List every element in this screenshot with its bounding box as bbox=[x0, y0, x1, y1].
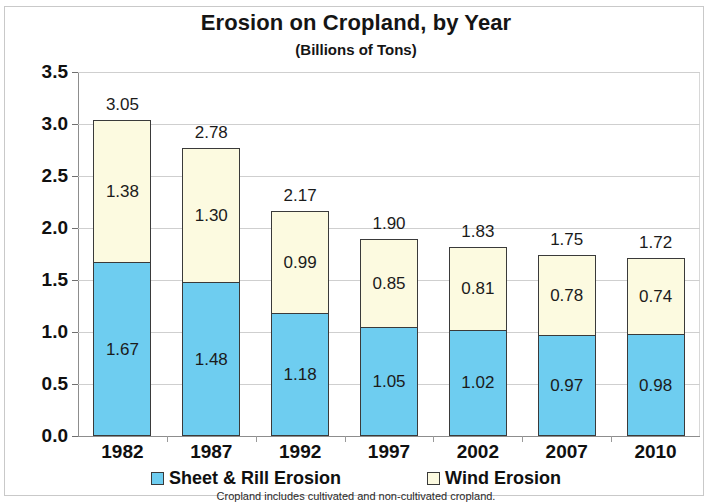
gridline bbox=[78, 176, 700, 177]
bar-segment-sheet-rill-erosion[interactable]: 0.97 bbox=[538, 335, 596, 436]
x-tick-label: 1987 bbox=[171, 441, 251, 463]
bar-segment-sheet-rill-erosion[interactable]: 1.48 bbox=[182, 282, 240, 436]
bar-group[interactable]: 3.051.381.67 bbox=[93, 120, 151, 436]
legend-label: Wind Erosion bbox=[445, 468, 561, 489]
y-tick-label: 2.5 bbox=[12, 165, 68, 187]
legend-swatch-icon bbox=[427, 472, 440, 485]
chart-subtitle: (Billions of Tons) bbox=[0, 41, 712, 58]
bar-total-label: 1.90 bbox=[372, 214, 405, 234]
bar-group[interactable]: 1.750.780.97 bbox=[538, 255, 596, 436]
y-tick-label: 1.5 bbox=[12, 269, 68, 291]
y-tick-mark bbox=[72, 72, 78, 73]
bar-value-label: 1.02 bbox=[461, 374, 494, 391]
y-tick-label: 0.5 bbox=[12, 373, 68, 395]
x-tick-label: 2002 bbox=[438, 441, 518, 463]
bar-group[interactable]: 1.720.740.98 bbox=[627, 258, 685, 436]
bar-value-label: 1.38 bbox=[106, 183, 139, 200]
bar-value-label: 0.97 bbox=[550, 377, 583, 394]
chart-legend: Sheet & Rill ErosionWind Erosion bbox=[0, 468, 712, 489]
y-tick-mark bbox=[72, 228, 78, 229]
bar-value-label: 1.18 bbox=[284, 366, 317, 383]
bar-value-label: 1.05 bbox=[372, 373, 405, 390]
bar-segment-sheet-rill-erosion[interactable]: 1.18 bbox=[271, 313, 329, 436]
bar-value-label: 0.85 bbox=[372, 275, 405, 292]
bar-value-label: 0.99 bbox=[284, 254, 317, 271]
bar-segment-sheet-rill-erosion[interactable]: 1.02 bbox=[449, 330, 507, 436]
y-axis: 0.00.51.01.52.02.53.03.5 bbox=[0, 72, 68, 436]
bar-value-label: 1.48 bbox=[195, 351, 228, 368]
plot-area: 3.051.381.672.781.301.482.170.991.181.90… bbox=[78, 72, 700, 436]
bar-segment-wind-erosion[interactable]: 1.30 bbox=[182, 148, 240, 283]
y-tick-label: 2.0 bbox=[12, 217, 68, 239]
bar-group[interactable]: 1.900.851.05 bbox=[360, 239, 418, 436]
bar-group[interactable]: 1.830.811.02 bbox=[449, 247, 507, 436]
legend-swatch-icon bbox=[151, 472, 164, 485]
legend-item[interactable]: Sheet & Rill Erosion bbox=[151, 468, 341, 489]
bar-segment-wind-erosion[interactable]: 1.38 bbox=[93, 120, 151, 264]
bar-total-label: 1.75 bbox=[550, 230, 583, 250]
x-tick-label: 1982 bbox=[82, 441, 162, 463]
bar-segment-sheet-rill-erosion[interactable]: 0.98 bbox=[627, 334, 685, 436]
bar-group[interactable]: 2.170.991.18 bbox=[271, 211, 329, 436]
bar-total-label: 1.83 bbox=[461, 222, 494, 242]
legend-item[interactable]: Wind Erosion bbox=[427, 468, 561, 489]
bar-total-label: 2.17 bbox=[284, 186, 317, 206]
bar-total-label: 1.72 bbox=[639, 233, 672, 253]
bar-total-label: 3.05 bbox=[106, 95, 139, 115]
y-tick-mark bbox=[72, 332, 78, 333]
y-tick-mark bbox=[72, 436, 78, 437]
gridline bbox=[78, 124, 700, 125]
x-tick-label: 2007 bbox=[527, 441, 607, 463]
x-tick-label: 1997 bbox=[349, 441, 429, 463]
bar-segment-wind-erosion[interactable]: 0.78 bbox=[538, 255, 596, 336]
bar-value-label: 0.81 bbox=[461, 280, 494, 297]
bar-segment-wind-erosion[interactable]: 0.99 bbox=[271, 211, 329, 314]
chart-container: Erosion on Cropland, by Year (Billions o… bbox=[0, 0, 712, 504]
y-tick-label: 1.0 bbox=[12, 321, 68, 343]
bar-value-label: 0.78 bbox=[550, 287, 583, 304]
y-tick-label: 3.5 bbox=[12, 61, 68, 83]
bar-value-label: 1.30 bbox=[195, 207, 228, 224]
bar-segment-sheet-rill-erosion[interactable]: 1.05 bbox=[360, 327, 418, 436]
y-tick-label: 0.0 bbox=[12, 425, 68, 447]
bar-value-label: 1.67 bbox=[106, 341, 139, 358]
bar-value-label: 0.74 bbox=[639, 288, 672, 305]
x-axis: 1982198719921997200220072010 bbox=[78, 441, 700, 471]
y-tick-mark bbox=[72, 384, 78, 385]
bar-segment-wind-erosion[interactable]: 0.85 bbox=[360, 239, 418, 327]
x-tick-label: 2010 bbox=[616, 441, 696, 463]
bar-value-label: 0.98 bbox=[639, 377, 672, 394]
y-tick-mark bbox=[72, 280, 78, 281]
bar-segment-wind-erosion[interactable]: 0.81 bbox=[449, 247, 507, 331]
bar-segment-sheet-rill-erosion[interactable]: 1.67 bbox=[93, 262, 151, 436]
y-tick-mark bbox=[72, 124, 78, 125]
gridline bbox=[78, 436, 700, 437]
legend-label: Sheet & Rill Erosion bbox=[169, 468, 341, 489]
chart-title: Erosion on Cropland, by Year bbox=[0, 10, 712, 36]
gridline bbox=[78, 72, 700, 73]
chart-footnote: Cropland includes cultivated and non-cul… bbox=[0, 490, 712, 502]
y-tick-label: 3.0 bbox=[12, 113, 68, 135]
bar-total-label: 2.78 bbox=[195, 123, 228, 143]
y-tick-mark bbox=[72, 176, 78, 177]
x-tick-label: 1992 bbox=[260, 441, 340, 463]
bar-segment-wind-erosion[interactable]: 0.74 bbox=[627, 258, 685, 335]
bar-group[interactable]: 2.781.301.48 bbox=[182, 148, 240, 436]
